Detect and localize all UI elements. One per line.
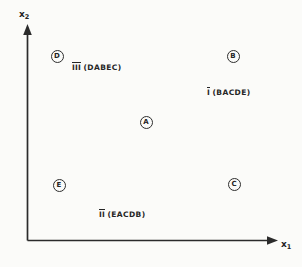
x-axis-label: x1: [281, 240, 291, 251]
x-axis-arrowhead: [267, 236, 278, 245]
group-label-iii-ordering: (DABEC): [83, 63, 121, 72]
data-point-a-label: A: [143, 119, 148, 126]
data-point-d-label: D: [54, 53, 60, 60]
axes: [0, 0, 302, 267]
y-axis-arrowhead: [23, 24, 32, 35]
data-point-e-label: E: [57, 182, 62, 189]
plot-area: x2 x1 D B A E C III(DABEC) I(BACDE) II(E…: [0, 0, 302, 267]
group-label-i-ordering: (BACDE): [213, 88, 251, 97]
data-point-c-label: C: [231, 181, 236, 188]
group-label-iii: III(DABEC): [72, 64, 122, 72]
group-label-i: I(BACDE): [207, 89, 251, 97]
x-axis-label-subscript: 1: [287, 243, 292, 251]
group-label-iii-roman: III: [72, 63, 81, 72]
scatter-diagram-figure: x2 x1 D B A E C III(DABEC) I(BACDE) II(E…: [0, 0, 302, 267]
y-axis-label-subscript: 2: [25, 13, 30, 21]
data-point-e: E: [53, 179, 66, 192]
group-label-i-roman: I: [207, 88, 210, 97]
group-label-ii: II(EACDB): [99, 211, 146, 219]
data-point-b: B: [227, 50, 240, 63]
group-label-ii-ordering: (EACDB): [107, 210, 145, 219]
group-label-ii-roman: II: [99, 210, 105, 219]
data-point-d: D: [51, 50, 64, 63]
data-point-c: C: [228, 178, 241, 191]
data-point-a: A: [140, 116, 153, 129]
y-axis-label: x2: [19, 10, 29, 21]
data-point-b-label: B: [230, 53, 235, 60]
